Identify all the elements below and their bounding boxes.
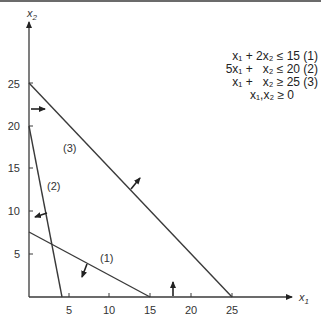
x-axis-label: x1 bbox=[298, 291, 309, 306]
line-label-2: (2) bbox=[47, 180, 60, 192]
constraint-line-1 bbox=[29, 232, 150, 297]
y-tick-label: 25 bbox=[8, 78, 20, 90]
y-tick-label: 10 bbox=[8, 205, 20, 217]
x-tick-label: 10 bbox=[103, 304, 115, 316]
y-tick-label: 15 bbox=[8, 162, 20, 174]
y-tick-label: 5 bbox=[14, 248, 20, 260]
direction-arrow-icon bbox=[82, 264, 87, 277]
x-tick-label: 5 bbox=[66, 304, 72, 316]
constraint-line-2 bbox=[29, 126, 62, 297]
direction-arrow-icon bbox=[35, 213, 47, 217]
x-tick-label: 20 bbox=[185, 304, 197, 316]
x-tick-label: 15 bbox=[144, 304, 156, 316]
y-tick-label: 20 bbox=[8, 120, 20, 132]
line-label-1: (1) bbox=[100, 252, 113, 264]
x-tick-label: 25 bbox=[226, 304, 238, 316]
constraint-list: x₁ + 2x₂ ≤ 15 (1) 5x₁ + x₂ ≤ 20 (2) x₁ +… bbox=[212, 50, 318, 102]
line-label-3: (3) bbox=[63, 142, 76, 154]
y-axis-label: x2 bbox=[26, 7, 38, 22]
direction-arrow-icon bbox=[131, 178, 140, 189]
nonnegativity-constraint: x₁,x₂ ≥ 0 bbox=[212, 89, 318, 102]
